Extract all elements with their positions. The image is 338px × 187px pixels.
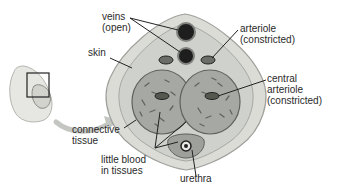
label-little-blood: little blood in tissues [101,154,146,176]
label-central-arteriole: central arteriole (constricted) [267,73,322,106]
label-arteriole: arteriole (constricted) [240,23,295,45]
corpus-cavernosum-right [180,70,240,134]
dorsal-vein-deep [178,48,194,64]
central-arteriole-right [205,93,219,100]
label-skin: skin [88,47,106,58]
central-arteriole-left [155,93,169,100]
penis-cross-section-diagram: veins (open) skin arteriole (constricted… [0,0,338,187]
label-veins: veins (open) [102,11,131,33]
label-connective-tissue: connective tissue [72,124,120,146]
dorsal-vein-top [177,23,195,41]
label-urethra: urethra [180,173,212,184]
arteriole-left [159,56,173,64]
locator-figure-icon [10,66,52,122]
